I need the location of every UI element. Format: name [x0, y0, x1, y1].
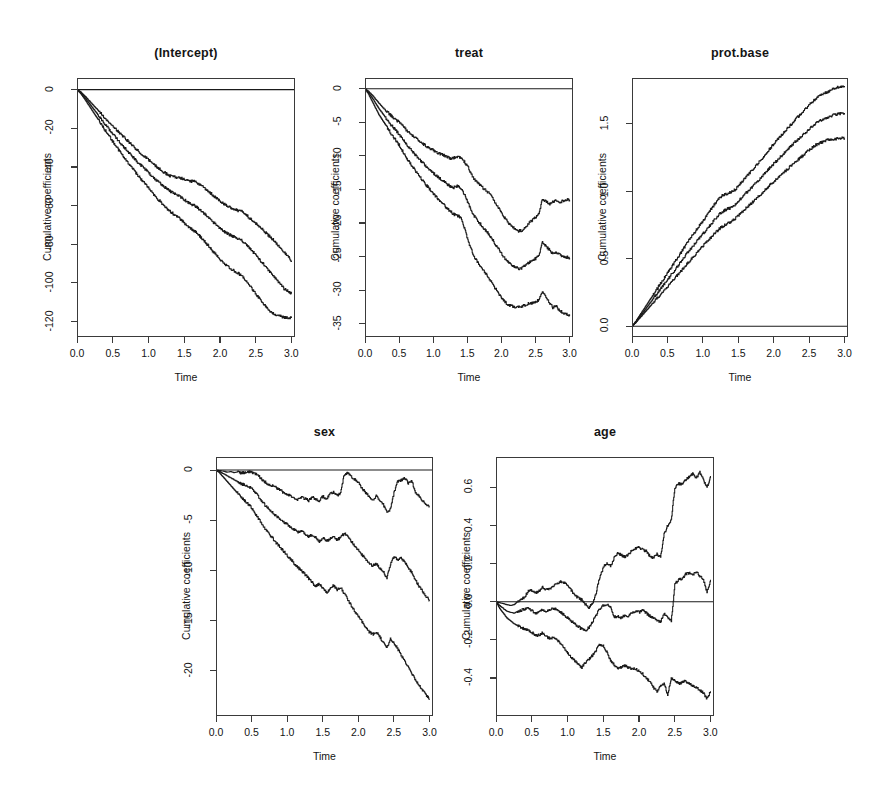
- y-tick-label-protbase-1: 0.5: [598, 240, 610, 276]
- x-tick-intercept-3: [184, 337, 185, 343]
- x-tick-label-protbase-1: 0.5: [647, 347, 687, 359]
- y-axis-label-age: Cumulative coefficients: [460, 486, 472, 686]
- y-axis-label-treat: Cumulative coefficients: [329, 107, 341, 307]
- x-tick-sex-4: [358, 716, 359, 722]
- y-tick-sex-2: [210, 570, 216, 571]
- x-tick-label-age-1: 0.5: [512, 726, 552, 738]
- x-tick-label-treat-4: 2.0: [481, 347, 521, 359]
- curve-age-upper-confidence-band: [496, 471, 710, 608]
- x-tick-age-2: [567, 716, 568, 722]
- plot-frame-treat: [365, 78, 573, 337]
- panel-intercept: (Intercept)0.00.51.01.52.02.53.00-20-40-…: [0, 0, 892, 807]
- curve-protbase-lower-confidence-band: [632, 137, 844, 326]
- curve-age-lower-confidence-band: [496, 602, 710, 699]
- curve-treat-lower-confidence-band: [365, 89, 570, 316]
- y-tick-label-intercept-3: -60: [43, 187, 55, 223]
- y-tick-sex-0: [210, 470, 216, 471]
- y-tick-label-sex-2: -10: [182, 551, 194, 587]
- y-tick-label-sex-1: -5: [182, 501, 194, 537]
- plot-frame-protbase: [632, 78, 848, 337]
- x-tick-protbase-4: [773, 337, 774, 343]
- plot-frame-age: [496, 457, 714, 716]
- y-tick-treat-0: [359, 88, 365, 89]
- x-tick-protbase-6: [844, 337, 845, 343]
- x-tick-treat-3: [467, 337, 468, 343]
- curve-treat-estimate: [365, 89, 570, 270]
- x-tick-sex-5: [393, 716, 394, 722]
- plot-frame-intercept: [77, 78, 295, 337]
- y-tick-label-treat-6: -30: [331, 271, 343, 307]
- y-tick-label-treat-0: 0: [331, 70, 343, 106]
- y-tick-label-treat-4: -20: [331, 204, 343, 240]
- x-tick-label-protbase-5: 2.5: [789, 347, 829, 359]
- x-tick-sex-3: [322, 716, 323, 722]
- x-tick-label-treat-5: 2.5: [515, 347, 555, 359]
- curves-layer-age: [0, 0, 892, 807]
- y-tick-label-protbase-2: 1.0: [598, 172, 610, 208]
- x-axis-label-sex: Time: [216, 750, 433, 762]
- y-tick-protbase-1: [626, 258, 632, 259]
- x-axis-label-age: Time: [496, 750, 714, 762]
- curve-protbase-upper-confidence-band: [632, 86, 844, 326]
- y-tick-label-treat-5: -25: [331, 237, 343, 273]
- x-axis-label-intercept: Time: [77, 371, 295, 383]
- y-tick-protbase-2: [626, 191, 632, 192]
- y-tick-protbase-0: [626, 326, 632, 327]
- y-tick-label-age-1: 0.4: [462, 507, 474, 543]
- y-tick-label-age-2: 0.2: [462, 545, 474, 581]
- x-tick-label-intercept-1: 0.5: [93, 347, 133, 359]
- x-tick-age-0: [496, 716, 497, 722]
- y-tick-label-sex-3: -15: [182, 602, 194, 638]
- y-axis-label-sex: Cumulative coefficients: [180, 486, 192, 686]
- x-tick-protbase-2: [702, 337, 703, 343]
- x-tick-sex-0: [216, 716, 217, 722]
- y-tick-label-age-4: -0.2: [462, 621, 474, 657]
- x-tick-treat-1: [399, 337, 400, 343]
- y-tick-intercept-6: [71, 321, 77, 322]
- panel-title-intercept: (Intercept): [77, 46, 295, 60]
- x-tick-label-age-4: 2.0: [619, 726, 659, 738]
- x-tick-label-treat-3: 1.5: [447, 347, 487, 359]
- y-tick-age-4: [490, 639, 496, 640]
- panel-title-sex: sex: [216, 425, 433, 439]
- y-tick-label-intercept-0: 0: [43, 71, 55, 107]
- x-tick-age-3: [603, 716, 604, 722]
- y-tick-label-protbase-0: 0.0: [598, 307, 610, 343]
- y-tick-protbase-3: [626, 123, 632, 124]
- y-tick-treat-4: [359, 222, 365, 223]
- panel-sex: sex0.00.51.01.52.02.53.00-5-10-15-20Time…: [0, 0, 892, 807]
- x-tick-treat-5: [535, 337, 536, 343]
- x-tick-sex-2: [287, 716, 288, 722]
- y-tick-treat-1: [359, 122, 365, 123]
- y-axis-label-intercept: Cumulative coefficients: [41, 107, 53, 307]
- panel-protbase: prot.base0.00.51.01.52.02.53.00.00.51.01…: [0, 0, 892, 807]
- y-tick-treat-2: [359, 155, 365, 156]
- y-tick-label-treat-1: -5: [331, 103, 343, 139]
- y-tick-label-intercept-5: -100: [43, 264, 55, 300]
- x-tick-label-sex-4: 2.0: [338, 726, 378, 738]
- panel-title-treat: treat: [365, 46, 573, 60]
- curves-layer-treat: [0, 0, 892, 807]
- y-tick-label-protbase-3: 1.5: [598, 105, 610, 141]
- x-tick-age-4: [638, 716, 639, 722]
- x-tick-label-age-5: 2.5: [655, 726, 695, 738]
- curve-intercept-lower-confidence-band: [77, 90, 291, 319]
- y-tick-age-0: [490, 487, 496, 488]
- y-tick-intercept-3: [71, 205, 77, 206]
- x-tick-treat-6: [569, 337, 570, 343]
- x-tick-label-age-3: 1.5: [583, 726, 623, 738]
- curves-layer-protbase: [0, 0, 892, 807]
- x-tick-intercept-4: [219, 337, 220, 343]
- y-tick-label-age-3: 0.0: [462, 583, 474, 619]
- y-tick-treat-3: [359, 189, 365, 190]
- curve-intercept-estimate: [77, 90, 291, 294]
- x-tick-label-protbase-4: 2.0: [754, 347, 794, 359]
- y-tick-label-intercept-4: -80: [43, 225, 55, 261]
- y-tick-treat-5: [359, 256, 365, 257]
- x-tick-intercept-6: [291, 337, 292, 343]
- curves-layer-intercept: [0, 0, 892, 807]
- x-tick-intercept-2: [148, 337, 149, 343]
- x-tick-label-protbase-6: 3.0: [824, 347, 864, 359]
- y-tick-age-3: [490, 601, 496, 602]
- x-tick-label-age-0: 0.0: [476, 726, 516, 738]
